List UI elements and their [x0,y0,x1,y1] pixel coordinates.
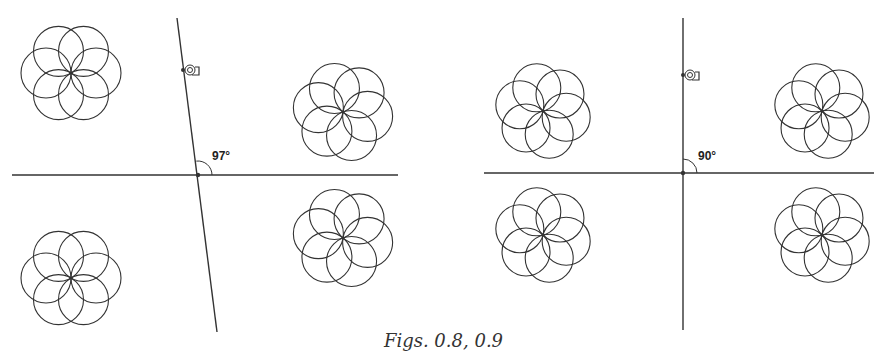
flower-center-point [69,276,72,279]
flower-center-point [69,71,72,74]
flower-center-point [820,233,823,236]
flower-pattern [21,231,121,324]
angle-label: 90° [698,149,716,163]
intersection-point[interactable] [196,173,200,177]
figure-caption: Figs. 0.8, 0.9 [0,330,887,351]
drag-handle-point[interactable] [181,68,185,72]
flower-pattern [775,64,869,158]
flower-pattern [775,188,869,282]
flower-pattern [293,64,392,161]
flower-center-point [541,233,544,236]
hand-cursor-icon [685,70,699,80]
intersection-point[interactable] [681,171,685,175]
flower-pattern [496,64,590,158]
panel-fig-0-8: 97° [12,18,398,332]
flower-center-point [820,109,823,112]
flower-center-point [341,110,344,113]
drag-handle-point[interactable] [681,73,685,77]
flower-pattern [293,190,392,287]
hand-cursor-icon [185,65,199,75]
flower-pattern [496,188,590,282]
flower-center-point [341,236,344,239]
angle-arc [683,159,697,173]
flower-center-point [541,109,544,112]
panel-fig-0-9: 90° [484,18,874,330]
angle-label: 97° [212,149,230,163]
flower-pattern [21,26,121,119]
